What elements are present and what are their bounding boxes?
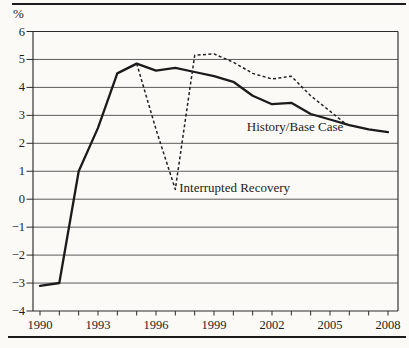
x-tick-label: 1996 <box>143 318 168 332</box>
series-label-interrupted-recovery: Interrupted Recovery <box>179 180 290 195</box>
x-tick-label: 1999 <box>201 318 226 332</box>
x-tick-label: 2002 <box>259 318 284 332</box>
x-tick-label: 2008 <box>375 318 400 332</box>
x-tick-label: 2005 <box>317 318 342 332</box>
y-tick-label: 1 <box>19 164 25 178</box>
y-tick-label: −1 <box>12 220 25 234</box>
scanned-figure: % 6543210−1−2−3−419901993199619992002200… <box>0 0 409 348</box>
y-tick-label: 0 <box>19 192 25 206</box>
y-tick-label: 4 <box>19 80 26 94</box>
y-tick-label: −2 <box>12 248 25 262</box>
y-tick-label: 5 <box>19 52 25 66</box>
y-tick-label: 6 <box>19 25 25 39</box>
x-tick-label: 1990 <box>28 318 53 332</box>
series-line-history-base-case <box>40 64 388 286</box>
y-tick-label: −4 <box>12 304 26 318</box>
x-tick-label: 1993 <box>85 318 110 332</box>
y-tick-label: 2 <box>19 136 25 150</box>
line-chart: 6543210−1−2−3−41990199319961999200220052… <box>0 0 409 348</box>
y-tick-label: −3 <box>12 276 25 290</box>
bottom-rule <box>8 336 406 338</box>
series-label-history-base-case: History/Base Case <box>247 119 344 134</box>
y-tick-label: 3 <box>19 108 25 122</box>
